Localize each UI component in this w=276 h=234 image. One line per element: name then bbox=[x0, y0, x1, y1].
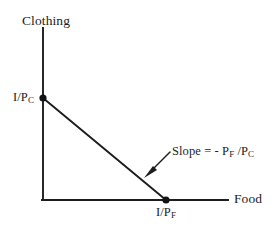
slope-annotation-sub-c: C bbox=[248, 149, 254, 159]
y-intercept-label-subscript: C bbox=[28, 95, 34, 105]
slope-annotation: Slope = - PF /PC bbox=[172, 145, 254, 158]
y-axis-title: Clothing bbox=[22, 14, 70, 28]
slope-annotation-middle: /P bbox=[234, 144, 248, 158]
slope-leader-arrow-icon bbox=[144, 152, 170, 178]
y-intercept-label: I/PC bbox=[13, 91, 34, 104]
x-axis-title: Food bbox=[234, 192, 262, 206]
budget-line bbox=[43, 98, 166, 200]
slope-annotation-prefix: Slope = - P bbox=[172, 144, 229, 158]
slope-annotation-sub-f: F bbox=[229, 149, 234, 159]
x-intercept-label: I/PF bbox=[156, 206, 176, 219]
y-intercept-point-marker bbox=[39, 94, 46, 101]
x-intercept-point-marker bbox=[162, 196, 169, 203]
budget-line-figure: Clothing Food I/PC I/PF Slope = - PF /PC bbox=[0, 0, 276, 234]
y-intercept-label-text: I/P bbox=[13, 90, 28, 104]
x-intercept-label-subscript: F bbox=[171, 210, 176, 220]
x-intercept-label-text: I/P bbox=[156, 205, 171, 219]
